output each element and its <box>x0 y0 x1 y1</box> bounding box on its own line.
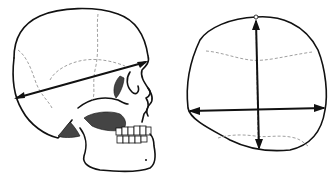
tooth <box>122 127 128 135</box>
bregma-point <box>254 15 258 19</box>
superior-skull <box>187 15 326 151</box>
skull-illustration <box>0 0 335 184</box>
mastoid-shade <box>58 122 80 138</box>
orbit-shade <box>114 76 124 98</box>
teeth <box>116 126 151 143</box>
tooth <box>116 128 122 135</box>
tooth <box>123 136 129 143</box>
eye-orbit <box>127 72 138 94</box>
coronal-suture-top <box>206 51 312 60</box>
tooth <box>117 136 123 143</box>
lambdoid-suture <box>18 50 52 108</box>
tooth <box>141 136 147 142</box>
lateral-skull <box>13 9 155 172</box>
skull-figure <box>0 0 335 184</box>
tooth <box>129 136 135 143</box>
mental-foramen <box>145 159 147 161</box>
squamosal-suture <box>50 59 125 80</box>
tooth <box>128 127 134 135</box>
length-arrow-superior <box>252 19 263 150</box>
tooth <box>134 126 140 135</box>
tooth <box>135 136 141 143</box>
tooth <box>140 126 146 135</box>
coronal-suture <box>92 14 98 100</box>
zygomatic-arch <box>78 98 128 108</box>
